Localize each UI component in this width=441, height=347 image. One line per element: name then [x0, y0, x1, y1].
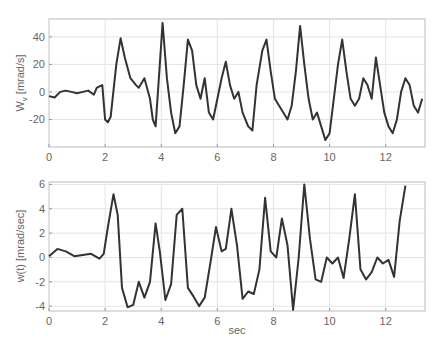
- x-tick-label: 6: [214, 315, 220, 327]
- x-tick-label: 6: [214, 151, 220, 163]
- bottom-y-axis-label: w(t) [mrad/sec]: [14, 210, 26, 284]
- bottom-plot: -4-20246 024681012 w(t) [mrad/sec] sec: [14, 178, 425, 336]
- y-tick-label: 40: [33, 31, 45, 43]
- y-tick-label: -2: [35, 276, 45, 288]
- y-tick-label: -20: [29, 113, 45, 125]
- y-tick-label: 20: [33, 58, 45, 70]
- x-tick-label: 2: [102, 151, 108, 163]
- x-tick-label: 0: [46, 315, 52, 327]
- x-tick-label: 10: [323, 315, 335, 327]
- chart-figure: -2002040 024681012 Wv [mrad/s] -4-20246 …: [0, 0, 441, 347]
- x-tick-label: 10: [323, 151, 335, 163]
- y-tick-label: -4: [35, 300, 45, 312]
- x-tick-label: 12: [380, 315, 392, 327]
- x-axis-label: sec: [228, 324, 246, 336]
- x-tick-label: 2: [102, 315, 108, 327]
- x-tick-label: 4: [158, 315, 164, 327]
- y-tick-label: 0: [39, 251, 45, 263]
- y-tick-label: 4: [39, 203, 45, 215]
- top-y-axis-label: Wv [mrad/s]: [14, 54, 29, 111]
- x-tick-label: 8: [270, 151, 276, 163]
- x-tick-label: 4: [158, 151, 164, 163]
- top-plot: -2002040 024681012 Wv [mrad/s]: [14, 19, 425, 163]
- y-tick-label: 6: [39, 178, 45, 190]
- x-tick-label: 0: [46, 151, 52, 163]
- y-tick-label: 2: [39, 227, 45, 239]
- x-tick-label: 12: [380, 151, 392, 163]
- y-tick-label: 0: [39, 86, 45, 98]
- x-tick-label: 8: [270, 315, 276, 327]
